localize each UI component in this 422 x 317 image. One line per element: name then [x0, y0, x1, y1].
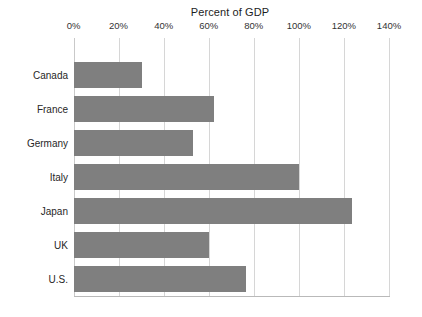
bar-canada: [74, 62, 143, 88]
gridline-100%: [299, 38, 300, 296]
bar-uk: [74, 232, 210, 258]
category-label: Italy: [0, 172, 68, 183]
y-axis-category-labels: CanadaFranceGermanyItalyJapanUKU.S.: [0, 0, 68, 317]
x-tick-label: 100%: [287, 20, 311, 31]
category-label: Germany: [0, 138, 68, 149]
x-tick-label: 40%: [154, 20, 173, 31]
bar-chart: Percent of GDP 0%20%40%60%80%100%120%140…: [0, 0, 422, 317]
x-tick-label: 80%: [244, 20, 263, 31]
category-label: Japan: [0, 206, 68, 217]
bar-germany: [74, 130, 194, 156]
category-label: Canada: [0, 70, 68, 81]
x-axis-line: [74, 296, 390, 297]
bar-japan: [74, 198, 353, 224]
gridline-120%: [344, 38, 345, 296]
bar-italy: [74, 164, 299, 190]
gridline-140%: [389, 38, 390, 296]
x-tick-label: 0%: [67, 20, 81, 31]
chart-title-text: Percent of GDP: [191, 6, 269, 18]
x-tick-label: 60%: [199, 20, 218, 31]
plot-area: [74, 38, 390, 296]
x-tick-label: 120%: [332, 20, 356, 31]
category-label: France: [0, 104, 68, 115]
x-tick-label: 20%: [109, 20, 128, 31]
category-label: UK: [0, 240, 68, 251]
category-label: U.S.: [0, 274, 68, 285]
bar-france: [74, 96, 215, 122]
x-tick-label: 140%: [377, 20, 401, 31]
bar-u-s: [74, 266, 247, 292]
